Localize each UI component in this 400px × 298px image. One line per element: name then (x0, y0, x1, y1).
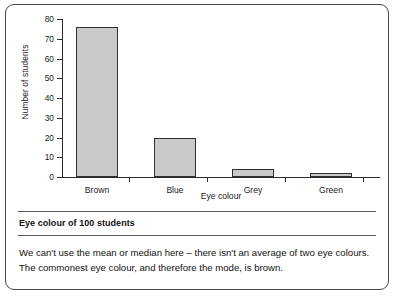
y-tick-10 (57, 157, 62, 158)
caption-rule-top (18, 211, 376, 212)
x-axis-title: Eye colour (62, 191, 380, 201)
y-tick-label-50: 50 (34, 74, 54, 82)
y-tick-30 (57, 118, 62, 119)
figure-card: Number of students 0 10 20 30 40 50 60 7… (5, 4, 389, 290)
y-tick-label-10: 10 (34, 153, 54, 161)
y-tick-0 (57, 177, 62, 178)
y-axis-line (62, 19, 63, 177)
bar-grey (232, 169, 274, 177)
caption-rule-middle (18, 235, 376, 236)
x-axis-line (62, 177, 380, 178)
x-tick-2 (207, 177, 208, 182)
y-tick-label-30: 30 (34, 114, 54, 122)
y-tick-label-0: 0 (34, 173, 54, 181)
bar-chart: Number of students 0 10 20 30 40 50 60 7… (6, 5, 390, 211)
y-tick-label-20: 20 (34, 134, 54, 142)
y-tick-60 (57, 59, 62, 60)
y-tick-80 (57, 19, 62, 20)
caption-title: Eye colour of 100 students (19, 218, 135, 228)
bar-brown (76, 27, 118, 177)
y-tick-label-80: 80 (34, 15, 54, 23)
x-tick-4 (363, 177, 364, 182)
y-tick-label-40: 40 (34, 94, 54, 102)
bar-green (310, 173, 352, 177)
y-tick-label-70: 70 (34, 35, 54, 43)
plot-region: 0 10 20 30 40 50 60 70 80 Brown Blue Gre… (62, 19, 380, 177)
y-axis-title: Number of students (20, 30, 30, 134)
y-tick-70 (57, 39, 62, 40)
y-tick-40 (57, 98, 62, 99)
y-tick-20 (57, 138, 62, 139)
y-tick-label-60: 60 (34, 55, 54, 63)
x-tick-3 (285, 177, 286, 182)
x-tick-1 (129, 177, 130, 182)
caption-body-text: We can't use the mean or median here – t… (19, 246, 371, 275)
bar-blue (154, 138, 196, 178)
y-tick-50 (57, 78, 62, 79)
